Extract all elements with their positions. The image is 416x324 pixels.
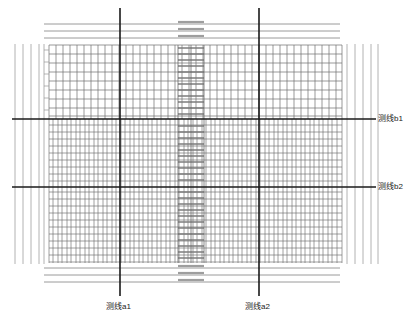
left-outer-columns: [15, 44, 44, 264]
survey-line-b2-label: 测线b2: [378, 182, 403, 192]
diagram-canvas: 测线b1 测线b2 测线a1 测线a2: [0, 0, 416, 324]
survey-line-b1-label: 测线b1: [378, 114, 403, 124]
grid-rows-upper: [49, 45, 342, 116]
grid-columns-lower: [49, 119, 342, 263]
survey-line-a1-label: 测线a1: [106, 302, 131, 312]
survey-line-a2-label: 测线a2: [245, 302, 270, 312]
right-outer-columns: [347, 44, 378, 264]
grid-rows-lower: [49, 125, 342, 262]
survey-grid-diagram: [0, 0, 416, 324]
left-edge-rungs: [44, 50, 49, 110]
